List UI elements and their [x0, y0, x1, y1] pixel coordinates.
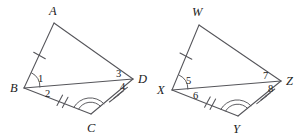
figure-wxyz: W X Y Z 5 6 7 8	[156, 5, 294, 136]
tick-group-bc	[57, 95, 68, 108]
vertex-label-w: W	[192, 5, 204, 19]
angle-number-7: 7	[263, 70, 268, 81]
segment-yz	[238, 81, 281, 116]
vertex-label-d: D	[137, 72, 147, 86]
vertex-label-a: A	[48, 4, 57, 18]
angle-number-3: 3	[116, 68, 121, 79]
angle-number-6: 6	[193, 90, 198, 101]
angle-number-4: 4	[120, 81, 126, 92]
vertex-label-b: B	[10, 81, 18, 95]
tick-group-wx	[180, 53, 192, 59]
vertex-label-x: X	[156, 83, 166, 97]
vertex-label-z: Z	[286, 74, 294, 88]
segment-xy	[172, 90, 238, 116]
angle-number-2: 2	[45, 88, 50, 99]
segment-cd	[91, 79, 133, 114]
tick-group-xy	[205, 97, 216, 110]
angle-arc-c	[74, 98, 105, 109]
geometry-canvas: A B C D 1 2 3 4	[0, 0, 304, 136]
segment-bc	[24, 88, 91, 114]
angle-number-5: 5	[186, 75, 191, 86]
vertex-label-c: C	[87, 121, 96, 135]
figure-abcd: A B C D 1 2 3 4	[10, 4, 147, 135]
geometry-diagram: A B C D 1 2 3 4	[0, 0, 304, 136]
angle-arc-y	[221, 100, 252, 111]
angle-number-8: 8	[268, 83, 273, 94]
angle-number-1: 1	[38, 73, 43, 84]
vertex-label-y: Y	[233, 122, 242, 136]
segment-wz	[199, 25, 281, 81]
